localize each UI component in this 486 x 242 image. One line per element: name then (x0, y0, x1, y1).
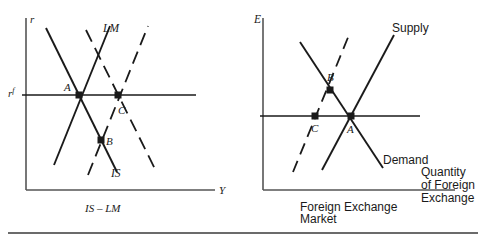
economics-figure-svg: r Y rf LM IS A B C IS – LM (0, 0, 486, 242)
demand-curve (300, 42, 383, 168)
left-y-axis-label: r (30, 13, 35, 25)
right-point-B-label: B (327, 71, 334, 83)
right-point-A (348, 113, 355, 120)
left-point-C (115, 92, 122, 99)
supply-curve (322, 35, 394, 170)
right-x-axis-label-line2: of Foreign (421, 178, 475, 192)
right-point-C (312, 113, 319, 120)
right-point-A-label: A (346, 123, 354, 135)
is-curve (46, 28, 117, 172)
world-rate-label: rf (8, 86, 16, 99)
lm-curve-label: LM (102, 22, 120, 34)
lm-shift-curve-dashed (88, 26, 148, 175)
left-point-A-label: A (63, 81, 71, 93)
left-x-axis-label: Y (219, 184, 227, 196)
right-point-C-label: C (311, 122, 319, 134)
left-point-B (98, 137, 105, 144)
right-panel-caption-line2: Market (300, 212, 337, 226)
right-point-B (327, 87, 334, 94)
world-rate-superscript: f (12, 86, 16, 95)
right-x-axis-label-line1: Quantity (421, 165, 466, 179)
is-curve-label: IS (110, 167, 121, 179)
right-panel-group: E Supply Demand B C A Quantity of Foreig… (253, 13, 478, 226)
right-panel-caption: Foreign Exchange Market (300, 200, 401, 226)
bottom-divider (8, 232, 478, 234)
left-panel-caption: IS – LM (84, 202, 121, 214)
right-y-axis-label: E (253, 13, 261, 25)
supply-curve-label: Supply (392, 21, 429, 35)
left-point-A (76, 92, 83, 99)
right-x-axis-label: Quantity of Foreign Exchange (421, 165, 478, 205)
left-panel-group: r Y rf LM IS A B C IS – LM (8, 13, 227, 214)
figure-root: r Y rf LM IS A B C IS – LM (0, 0, 486, 242)
left-point-C-label: C (118, 104, 126, 116)
right-x-axis-label-line3: Exchange (421, 191, 475, 205)
left-point-B-label: B (106, 135, 113, 147)
